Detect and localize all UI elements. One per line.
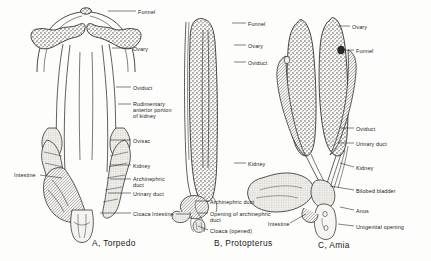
amia-funnel-left bbox=[284, 56, 290, 63]
label-urinary-duct: Urinary duct bbox=[133, 191, 164, 197]
label-ovary: Ovary bbox=[133, 46, 148, 52]
label-urogenital-opening: Urogenital opening bbox=[356, 224, 404, 230]
label-cloaca-opened: Cloaca (opened) bbox=[210, 228, 252, 234]
leader-line-c-4 bbox=[340, 163, 354, 167]
label-cloaca: Cloaca bbox=[133, 211, 151, 217]
label-archinephric-duct: Archinephric duct bbox=[210, 199, 254, 205]
torpedo-cloaca bbox=[71, 210, 94, 243]
label-funnel: Funnel bbox=[356, 48, 373, 54]
amia-bilobed-bladder-left-lobe bbox=[248, 173, 314, 212]
panel-c-amia-drawing bbox=[248, 18, 357, 240]
label-funnel: Funnel bbox=[138, 9, 155, 15]
protopterus-cloaca-chamber bbox=[193, 220, 205, 233]
caption-panel-c: C, Amia bbox=[318, 240, 350, 250]
amia-terminal-region bbox=[314, 204, 336, 240]
label-ovisac: Ovisac bbox=[133, 138, 150, 144]
torpedo-ovary-left bbox=[31, 24, 85, 49]
label-kidney: Kidney bbox=[248, 161, 265, 167]
leader-line-c-7 bbox=[338, 224, 354, 226]
caption-panel-b: B, Protopterus bbox=[214, 238, 272, 248]
label-urinary-duct: Urinary duct bbox=[356, 141, 387, 147]
label-kidney: Kidney bbox=[133, 163, 150, 169]
label-bilobed-bladder: Bilobed bladder bbox=[356, 188, 396, 194]
leader-line-c-6 bbox=[340, 207, 354, 210]
label-rudimentary-anterior-portion-of-kidney: Rudimentary anterior portion of kidney bbox=[133, 101, 172, 120]
protopterus-ovary bbox=[189, 19, 217, 203]
label-archinephric-duct: Archinephric duct bbox=[133, 176, 165, 188]
label-ovary: Ovary bbox=[248, 43, 263, 49]
torpedo-funnel bbox=[81, 8, 92, 14]
caption-panel-a: A, Torpedo bbox=[92, 238, 136, 248]
label-oviduct: Oviduct bbox=[133, 85, 152, 91]
label-intestine: Intestine bbox=[152, 211, 174, 217]
label-opening-of-archinephric-duct: Opening of archinephric duct bbox=[210, 211, 271, 223]
label-anus: Anus bbox=[356, 208, 369, 214]
label-ovary: Ovary bbox=[352, 24, 367, 30]
protopterus-intestine bbox=[172, 211, 190, 222]
amia-anus bbox=[323, 211, 327, 216]
label-funnel: Funnel bbox=[248, 21, 265, 27]
label-oviduct: Oviduct bbox=[248, 60, 267, 66]
label-kidney: Kidney bbox=[356, 165, 373, 171]
panel-a-torpedo-drawing bbox=[31, 8, 141, 243]
anatomical-figure: FunnelOvaryOviductRudimentary anterior p… bbox=[0, 0, 431, 261]
amia-ovary-left bbox=[287, 20, 316, 156]
label-intestine: Intestine bbox=[268, 221, 290, 227]
amia-urogenital-opening bbox=[324, 226, 328, 231]
amia-ovary-right bbox=[319, 18, 348, 156]
label-intestine: Intestine bbox=[14, 172, 36, 178]
label-oviduct: Oviduct bbox=[356, 126, 375, 132]
